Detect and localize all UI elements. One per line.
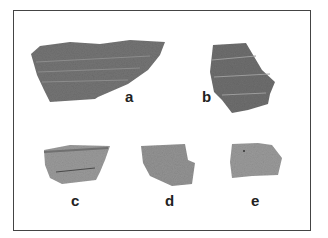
label-a: a (125, 89, 133, 104)
sherd-d (141, 144, 195, 186)
label-d: d (165, 193, 174, 208)
label-c: c (71, 193, 79, 208)
label-b: b (202, 89, 211, 104)
sherd-e (230, 143, 282, 178)
sherd-c (44, 145, 110, 184)
sherd-b (210, 43, 275, 113)
sherds-illustration (0, 0, 328, 238)
sherd-a (31, 40, 165, 102)
label-e: e (251, 193, 259, 208)
